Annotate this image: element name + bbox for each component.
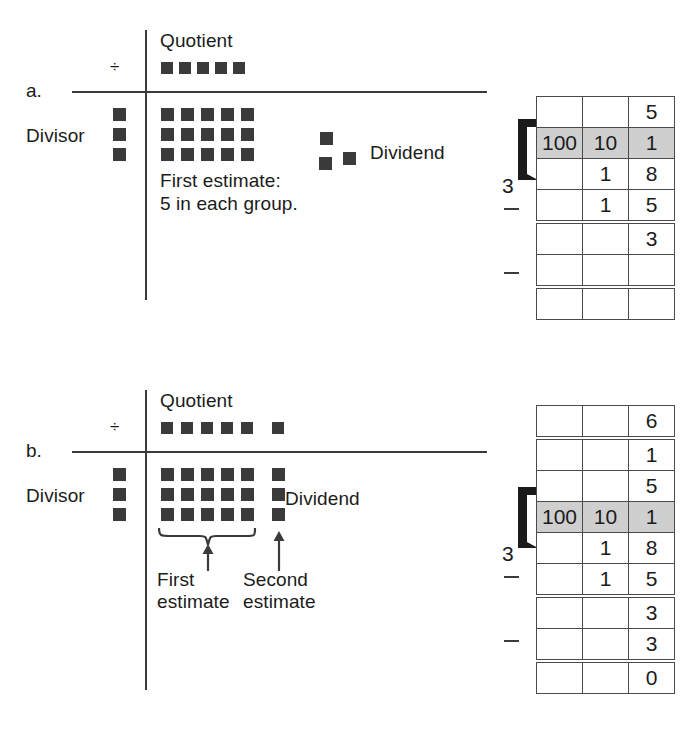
array-square	[241, 508, 254, 521]
panel-a-divisor-label: Divisor	[26, 125, 85, 147]
quotient-square	[233, 62, 245, 74]
array-square	[181, 468, 194, 481]
panel-b-divisor-label: Divisor	[26, 485, 85, 507]
table-cell: 1	[583, 159, 629, 190]
divisor-square	[113, 128, 126, 141]
divisor-square	[113, 108, 126, 121]
quotient-square	[215, 62, 227, 74]
table-cell	[583, 629, 629, 662]
panel-b-quotient-label: Quotient	[160, 390, 233, 412]
table-cell	[537, 661, 583, 694]
array-square	[161, 148, 174, 161]
quotient-square	[201, 422, 213, 434]
table-cell: 100	[537, 128, 583, 159]
array-square	[181, 148, 194, 161]
table-cell: 8	[629, 533, 675, 564]
array-square	[221, 148, 234, 161]
panel-b-table-body: 6151001011815330	[537, 406, 675, 694]
panel-b-brace-label-line1: First	[157, 569, 194, 591]
remainder-square	[319, 157, 332, 170]
table-cell	[629, 255, 675, 288]
table-cell	[537, 406, 583, 439]
array-square	[201, 508, 214, 521]
divisor-square	[113, 488, 126, 501]
panel-a-quotient-label: Quotient	[160, 30, 233, 52]
array-square	[221, 128, 234, 141]
panel-a: a. Quotient ÷ Divisor Dividend First est…	[0, 0, 699, 360]
array-square	[221, 108, 234, 121]
table-cell: 1	[583, 564, 629, 597]
table-cell	[583, 471, 629, 502]
array-square	[181, 108, 194, 121]
table-cell	[537, 629, 583, 662]
remainder-square	[320, 132, 333, 145]
table-cell	[583, 222, 629, 255]
table-cell: 3	[629, 629, 675, 662]
table-cell: 5	[629, 471, 675, 502]
array-square	[161, 508, 174, 521]
table-cell: 100	[537, 502, 583, 533]
panel-b-divisor-digit: 3	[502, 542, 514, 566]
table-cell	[537, 222, 583, 255]
quotient-square	[161, 422, 173, 434]
table-row: 3	[537, 222, 675, 255]
table-cell	[583, 287, 629, 320]
panel-a-divide-icon: ÷	[110, 57, 119, 77]
table-cell	[583, 97, 629, 128]
table-cell	[583, 661, 629, 694]
array-square	[241, 488, 254, 501]
table-cell	[583, 438, 629, 471]
table-row: 5	[537, 471, 675, 502]
quotient-square	[161, 62, 173, 74]
table-cell	[537, 564, 583, 597]
array-square	[161, 488, 174, 501]
table-cell	[537, 287, 583, 320]
array-square	[241, 468, 254, 481]
quotient-extra-square	[272, 422, 284, 434]
second-group-square	[272, 468, 285, 481]
table-cell	[537, 596, 583, 629]
second-group-square	[272, 508, 285, 521]
panel-b-minus-sign	[504, 640, 519, 642]
array-square	[201, 148, 214, 161]
panel-a-place-value-table: 510010118153	[536, 96, 675, 320]
table-cell: 1	[583, 533, 629, 564]
table-cell	[537, 190, 583, 223]
array-square	[161, 128, 174, 141]
quotient-square	[241, 422, 253, 434]
panel-b-horizontal-rule	[72, 451, 487, 453]
table-cell: 10	[583, 502, 629, 533]
table-row: 6	[537, 406, 675, 439]
panel-a-minus-sign	[504, 272, 519, 274]
array-square	[181, 488, 194, 501]
table-row	[537, 287, 675, 320]
table-cell	[629, 287, 675, 320]
array-square	[221, 488, 234, 501]
table-row: 3	[537, 629, 675, 662]
panel-b-vertical-rule	[145, 390, 147, 690]
table-cell: 3	[629, 222, 675, 255]
table-row: 18	[537, 159, 675, 190]
remainder-square	[343, 152, 356, 165]
panel-a-note-line2: 5 in each group.	[160, 193, 298, 215]
panel-b-place-value-table: 6151001011815330	[536, 405, 675, 694]
array-square	[201, 468, 214, 481]
table-cell	[583, 255, 629, 288]
array-square	[201, 108, 214, 121]
array-square	[221, 468, 234, 481]
array-square	[161, 108, 174, 121]
table-cell: 8	[629, 159, 675, 190]
array-square	[161, 468, 174, 481]
table-cell: 1	[629, 438, 675, 471]
table-row: 100101	[537, 128, 675, 159]
quotient-square	[181, 422, 193, 434]
table-row: 15	[537, 564, 675, 597]
quotient-square	[179, 62, 191, 74]
table-cell: 3	[629, 596, 675, 629]
table-cell: 6	[629, 406, 675, 439]
panel-a-horizontal-rule	[72, 91, 487, 93]
table-cell: 1	[629, 128, 675, 159]
table-row	[537, 255, 675, 288]
table-cell	[537, 159, 583, 190]
panel-a-table-body: 510010118153	[537, 97, 675, 320]
